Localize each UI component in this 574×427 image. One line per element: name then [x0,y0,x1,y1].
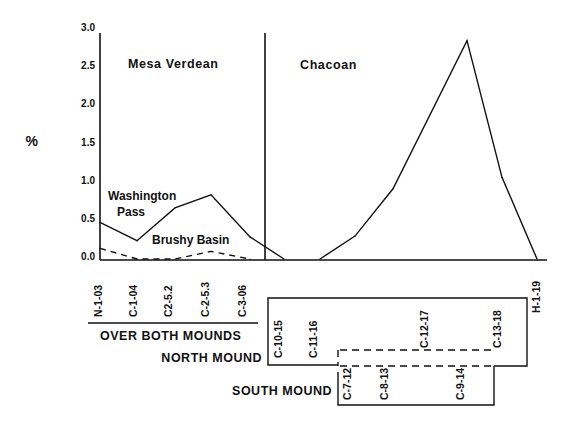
sample-label: N-1-03 [92,285,104,317]
series-label-brushy-basin: Brushy Basin [152,233,229,247]
series-line-brushy-basin [100,248,250,259]
data-point [283,258,284,259]
series-label-pass: Pass [117,205,145,219]
data-point [136,240,137,241]
sample-label: C2-5.2 [162,285,174,317]
data-point [249,258,250,259]
sample-label: C-2-5.3 [199,282,211,317]
data-point [210,194,211,195]
group-label-south-mound: SOUTH MOUND [232,384,332,398]
data-point [136,258,137,259]
data-point [392,188,393,189]
y-tick-labels: 0.00.51.01.52.02.53.0 [81,22,95,262]
period-label-chacoan: Chacoan [300,58,357,72]
data-point [99,222,100,223]
y-tick-label: 2.0 [81,98,95,109]
series-label-washington: Washington [108,189,176,203]
sample-label: C-7-12 [341,368,353,400]
y-tick-label: 1.5 [81,137,95,148]
data-point [319,258,320,259]
sample-label: C-9-14 [454,368,466,400]
group-label-over-both-mounds: OVER BOTH MOUNDS [100,329,241,343]
data-point [174,207,175,208]
y-tick-label: 3.0 [81,22,95,33]
sample-label: H-1-19 [530,281,542,313]
y-tick-label: 0.0 [81,251,95,262]
data-point [99,248,100,249]
sample-label: C-3-06 [236,285,248,317]
sample-label: C-8-13 [378,368,390,400]
data-point [210,251,211,252]
sample-label: C-12-17 [418,310,430,348]
y-axis-label: % [25,133,38,149]
series-line-chacoan-washington-pass [320,41,537,259]
data-point [249,236,250,237]
period-label-mesa-verdean: Mesa Verdean [128,57,219,71]
data-point [501,177,502,178]
data-point [174,258,175,259]
sample-label: C-13-18 [491,310,503,348]
chart: % 0.00.51.01.52.02.53.0 Mesa Verdean Cha… [0,0,574,427]
group-label-north-mound: NORTH MOUND [161,351,262,365]
sample-label: C-11-16 [307,320,319,358]
sample-label: C-10-15 [272,320,284,358]
data-point [536,258,537,259]
series-lines [99,40,537,260]
y-tick-label: 0.5 [81,213,95,224]
south-mound-bracket [338,366,494,405]
data-point [466,40,467,41]
sample-label: C-1-04 [127,285,139,317]
data-point [354,236,355,237]
y-tick-label: 1.0 [81,175,95,186]
y-tick-label: 2.5 [81,60,95,71]
